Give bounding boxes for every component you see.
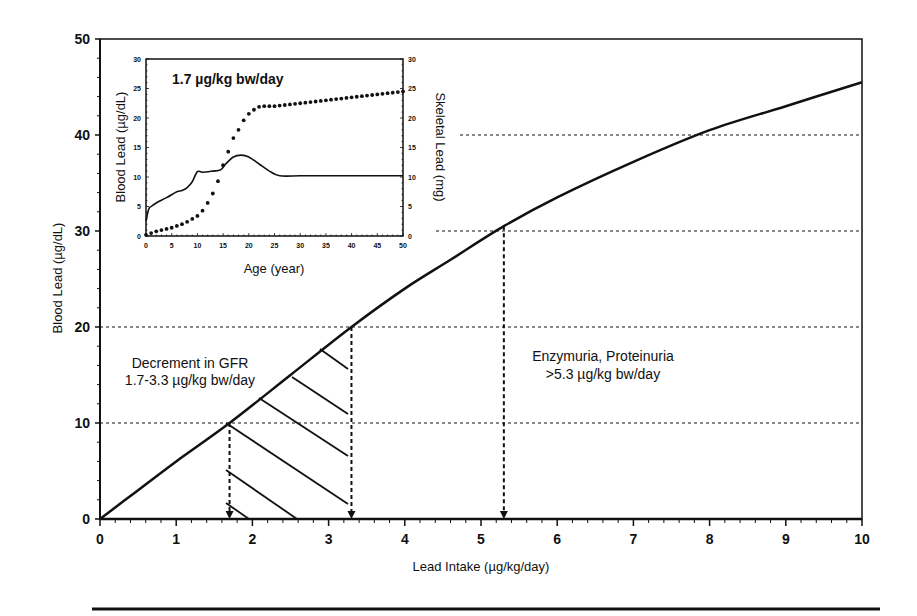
y-tick-label: 40 <box>74 127 90 143</box>
inset-y-axis-title: Blood Lead (µg/dL) <box>113 92 128 203</box>
inset-title: 1.7 µg/kg bw/day <box>172 71 284 87</box>
x-tick-label: 4 <box>401 531 409 547</box>
inset-x-tick-label: 15 <box>219 242 227 249</box>
x-tick-label: 1 <box>172 531 180 547</box>
inset-y-tick-label: 30 <box>133 56 141 63</box>
inset-chart: 0510152025303540455005101520253005101520… <box>113 56 448 277</box>
inset-x-tick-label: 5 <box>170 242 174 249</box>
x-tick-label: 10 <box>854 531 870 547</box>
inset-x-axis-title: Age (year) <box>244 261 305 276</box>
y-tick-label: 30 <box>74 223 90 239</box>
inset-y2-axis-title: Skeletal Lead (mg) <box>433 92 448 201</box>
inset-y2-tick-label: 0 <box>408 233 412 240</box>
inset-y-tick-label: 0 <box>137 233 141 240</box>
x-tick-label: 5 <box>477 531 485 547</box>
inset-x-tick-label: 45 <box>373 242 381 249</box>
inset-x-tick-label: 50 <box>399 242 407 249</box>
x-tick-label: 0 <box>96 531 104 547</box>
inset-x-tick-label: 30 <box>296 242 304 249</box>
gfr-annotation-line2: 1.7-3.3 µg/kg bw/day <box>125 372 255 388</box>
inset-y2-tick-label: 15 <box>408 144 416 151</box>
x-tick-label: 2 <box>249 531 257 547</box>
inset-x-tick-label: 10 <box>194 242 202 249</box>
inset-x-tick-label: 35 <box>322 242 330 249</box>
inset-y-tick-label: 5 <box>137 203 141 210</box>
x-axis-title: Lead Intake (µg/kg/day) <box>413 559 550 574</box>
y-tick-label: 50 <box>74 31 90 47</box>
inset-y2-tick-label: 30 <box>408 56 416 63</box>
y-tick-label: 20 <box>74 319 90 335</box>
x-tick-label: 6 <box>553 531 561 547</box>
inset-y-tick-label: 15 <box>133 144 141 151</box>
inset-y2-tick-label: 20 <box>408 115 416 122</box>
inset-x-tick-label: 20 <box>245 242 253 249</box>
inset-x-tick-label: 40 <box>348 242 356 249</box>
chart-figure: 01234567891001020304050 Lead Intake (µg/… <box>0 0 917 616</box>
x-tick-label: 8 <box>706 531 714 547</box>
x-tick-label: 7 <box>630 531 638 547</box>
x-tick-label: 9 <box>782 531 790 547</box>
inset-y-tick-label: 10 <box>133 174 141 181</box>
inset-y2-tick-label: 10 <box>408 174 416 181</box>
enzymuria-annotation-line1: Enzymuria, Proteinuria <box>532 348 674 364</box>
inset-y-tick-label: 25 <box>133 85 141 92</box>
inset-y2-tick-label: 5 <box>408 203 412 210</box>
y-tick-label: 0 <box>82 511 90 527</box>
inset-y2-tick-label: 25 <box>408 85 416 92</box>
inset-y-tick-label: 20 <box>133 115 141 122</box>
inset-x-tick-label: 25 <box>271 242 279 249</box>
inset-x-tick-label: 0 <box>144 242 148 249</box>
x-tick-label: 3 <box>325 531 333 547</box>
y-tick-label: 10 <box>74 415 90 431</box>
y-axis-title: Blood Lead (µg/dL) <box>50 223 65 334</box>
gfr-annotation-line1: Decrement in GFR <box>132 355 249 371</box>
enzymuria-annotation-line2: >5.3 µg/kg bw/day <box>546 366 660 382</box>
